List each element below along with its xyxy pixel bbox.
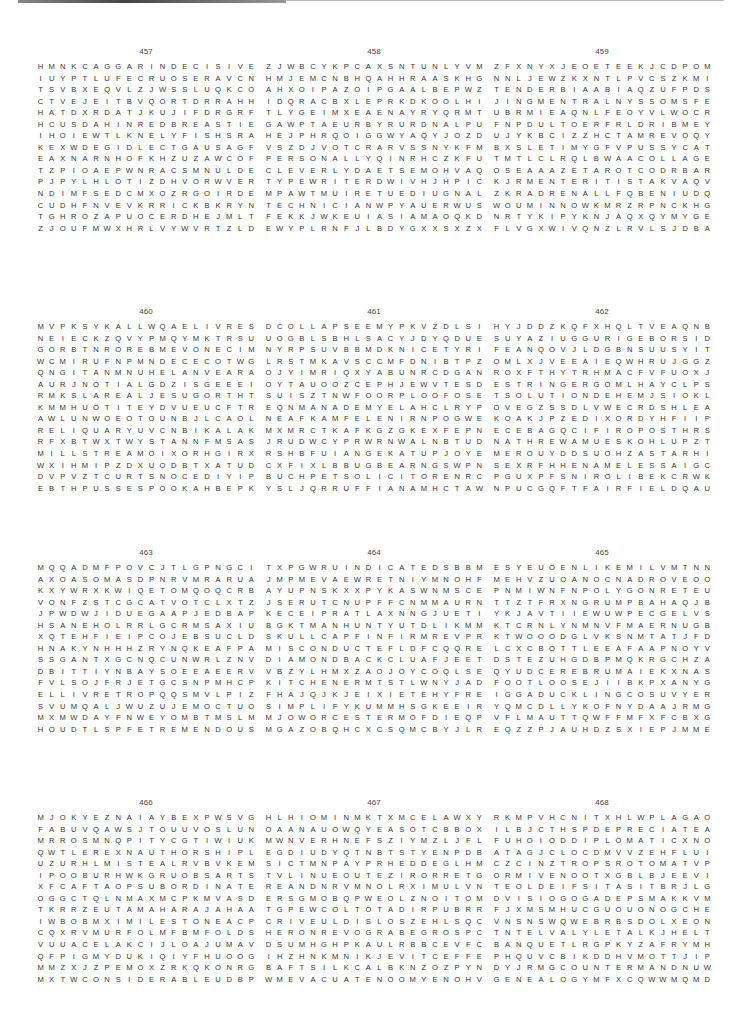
grid-letter: Z [79,471,90,483]
grid-row: FEKKJWKEUIASIAMAOQKD [263,211,485,223]
grid-letter: T [79,893,90,905]
grid-letter: A [213,904,224,916]
grid-letter: F [524,367,535,379]
grid-letter: R [318,223,329,235]
grid-letter: K [452,142,463,154]
grid-letter: A [124,379,135,391]
grid-row: OGGCTQLNMAXMCPKMVASD [35,893,257,905]
grid-letter: O [591,585,602,597]
grid-letter: Q [702,188,713,200]
grid-letter: T [307,188,318,200]
grid-letter: O [90,402,101,414]
grid-letter: V [79,689,90,701]
grid-row: DCOLLAPSEEMYPKVZDLSI [263,321,485,333]
grid-letter: X [513,643,524,655]
grid-letter: I [57,460,68,472]
grid-letter: F [263,211,274,223]
grid-letter: D [474,677,485,689]
grid-letter: E [441,701,452,713]
grid-letter: P [463,460,474,472]
grid-letter: O [307,812,318,824]
grid-letter: R [407,460,418,472]
grid-letter: P [318,608,329,620]
grid-letter: N [374,631,385,643]
grid-letter: M [474,562,485,574]
grid-letter: A [591,893,602,905]
grid-letter: N [318,402,329,414]
grid-letter: V [135,96,146,108]
grid-letter: A [113,107,124,119]
grid-letter: S [285,893,296,905]
grid-letter: O [429,165,440,177]
grid-letter: A [124,812,135,824]
grid-letter: R [318,562,329,574]
grid-row: JRUDWCYPRWRNWALNBTUD [263,436,485,448]
grid-letter: S [374,835,385,847]
grid-letter: N [429,585,440,597]
grid-letter: I [113,119,124,131]
grid-letter: L [463,724,474,736]
grid-letter: M [535,96,546,108]
grid-letter: R [224,200,235,212]
grid-letter: R [102,448,113,460]
grid-letter: B [330,893,341,905]
grid-letter: H [491,321,502,333]
grid-letter: N [441,974,452,986]
grid-letter: E [90,904,101,916]
grid-letter: N [680,962,691,974]
grid-letter: R [385,119,396,131]
grid-letter: O [502,200,513,212]
grid-letter: O [213,927,224,939]
grid-letter: K [35,402,46,414]
grid-letter: F [224,402,235,414]
grid-letter: L [374,962,385,974]
grid-letter: B [190,712,201,724]
grid-letter: R [201,654,212,666]
grid-letter: D [79,119,90,131]
grid-letter: B [491,939,502,951]
grid-letter: G [558,379,569,391]
grid-letter: D [224,974,235,986]
grid-letter: K [635,677,646,689]
grid-letter: I [146,939,157,951]
grid-letter: I [318,962,329,974]
grid-letter: E [363,188,374,200]
grid-letter: A [235,904,246,916]
grid-letter: O [580,858,591,870]
grid-letter: H [418,402,429,414]
grid-letter: O [190,176,201,188]
grid-letter: A [535,165,546,177]
grid-letter: N [580,390,591,402]
grid-letter: E [646,620,657,632]
grid-letter: H [691,200,702,212]
grid-letter: B [702,321,713,333]
grid-letter: F [491,904,502,916]
grid-letter: E [363,974,374,986]
grid-letter: R [274,893,285,905]
grid-letter: D [602,951,613,963]
grid-letter: B [613,916,624,928]
grid-letter: U [535,562,546,574]
grid-letter: J [513,608,524,620]
grid-letter: P [452,84,463,96]
grid-letter: O [135,962,146,974]
grid-letter: E [502,448,513,460]
grid-letter: T [168,562,179,574]
grid-letter: F [90,631,101,643]
grid-letter: I [407,574,418,586]
grid-letter: B [491,142,502,154]
grid-letter: U [680,188,691,200]
grid-letter: T [385,574,396,586]
grid-letter: T [491,927,502,939]
grid-letter: S [646,448,657,460]
grid-letter: V [657,562,668,574]
grid-letter: S [452,927,463,939]
grid-letter: W [396,436,407,448]
grid-letter: D [474,379,485,391]
grid-letter: I [591,881,602,893]
grid-letter: N [613,96,624,108]
grid-letter: T [513,927,524,939]
grid-letter: U [352,620,363,632]
grid-letter: Z [558,165,569,177]
grid-letter: B [179,425,190,437]
